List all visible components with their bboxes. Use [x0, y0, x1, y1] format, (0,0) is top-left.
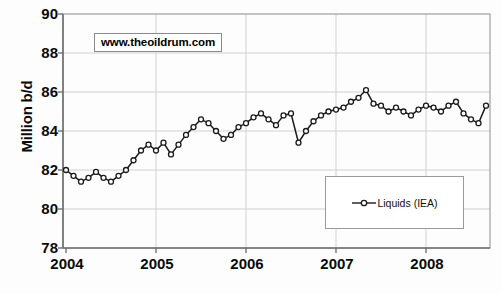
legend-label-liquids-iea: Liquids (IEA): [377, 197, 437, 209]
plot-area: [0, 0, 501, 294]
legend-marker-icon: [351, 197, 377, 209]
legend: Liquids (IEA): [325, 176, 464, 229]
watermark-label: www.theoildrum.com: [94, 33, 222, 52]
chart-container: Million b/d 90 88 86 84 82 80 78 2004 20…: [0, 0, 501, 294]
